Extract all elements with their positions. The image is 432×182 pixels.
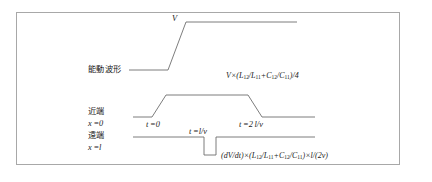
aggressor-waveform-line xyxy=(150,22,297,70)
far-end-amplitude-formula: (dV/dt)×(L12/L11+C12/C11)×l/(2v) xyxy=(221,152,328,161)
near-end-formula-prefix: V×(L xyxy=(226,71,243,80)
far-end-formula-suffix: )×l/(2v) xyxy=(303,151,328,160)
near-end-name-label: 近端 xyxy=(88,107,105,115)
near-end-formula-mid2: +C xyxy=(261,71,272,80)
time-zero-label: t =0 xyxy=(146,121,160,129)
time-l-over-v-label: t =l/v xyxy=(189,128,207,136)
figure-border xyxy=(17,13,400,165)
near-end-waveform-line xyxy=(133,95,315,117)
far-end-formula-prefix: (dV/dt)×(L xyxy=(221,151,256,160)
time-two-l-over-v-label: t =2 l/v xyxy=(239,121,263,129)
far-end-formula-mid2: +C xyxy=(274,151,285,160)
aggressor-name-label: 能動波形 xyxy=(88,65,121,73)
near-end-formula-mid1: /L xyxy=(249,71,256,80)
near-end-formula-suffix: )/4 xyxy=(290,71,299,80)
near-end-formula-mid3: /C xyxy=(277,71,285,80)
aggressor-amplitude-label: V xyxy=(172,15,177,23)
far-end-position-label: x =l xyxy=(88,144,101,152)
far-end-name-label: 遠端 xyxy=(88,131,105,139)
waveform-canvas xyxy=(0,0,432,182)
near-end-position-label: x =0 xyxy=(88,120,103,128)
near-end-amplitude-formula: V×(L12/L11+C12/C11)/4 xyxy=(226,72,299,81)
crosstalk-waveform-figure: V 能動波形 近端 x =0 遠端 x =l t =0 t =l/v t =2 … xyxy=(0,0,432,182)
